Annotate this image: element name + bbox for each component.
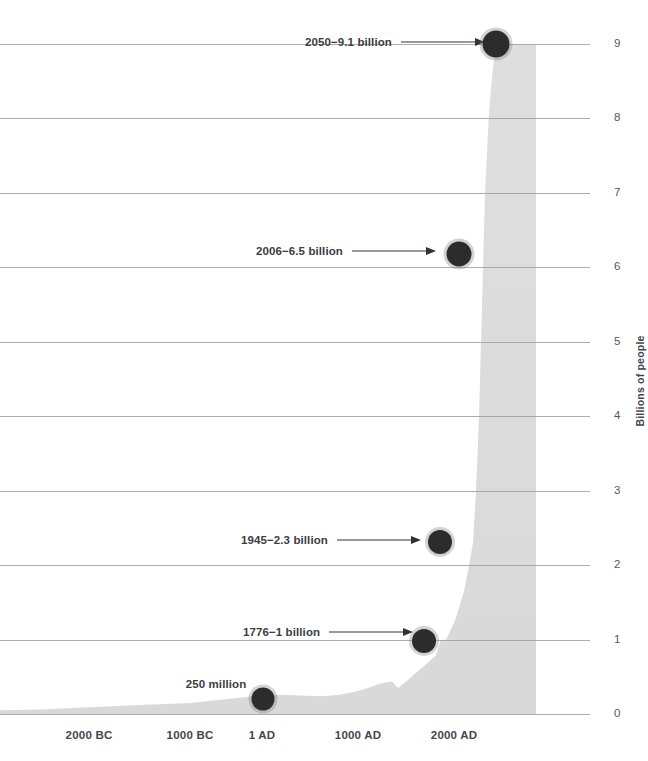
annotation-pop-2006: 2006−6.5 billion (256, 245, 437, 257)
xtick-label-1ad: 1 AD (249, 729, 276, 741)
gridline-4 (0, 416, 590, 417)
ytick-label-8: 8 (614, 111, 621, 123)
annotation-pop-1945: 1945−2.3 billion (241, 534, 422, 546)
ytick-label-9: 9 (614, 37, 621, 49)
gridline-5 (0, 342, 590, 343)
annotation-label-pop-2006: 2006−6.5 billion (256, 245, 343, 257)
population-area-path (0, 0, 648, 761)
gridline-2 (0, 565, 590, 566)
population-area-chart: 9 8 7 6 5 4 3 2 1 0 Billions of people 2… (0, 0, 648, 761)
gridline-3 (0, 491, 590, 492)
ytick-label-5: 5 (614, 335, 621, 347)
xtick-label-2000bc: 2000 BC (66, 729, 113, 741)
marker-pop-2006 (447, 242, 472, 267)
y-axis-title: Billions of people (634, 335, 646, 426)
xtick-label-2000ad: 2000 AD (431, 729, 477, 741)
arrow-right-icon (329, 627, 414, 637)
ytick-label-0: 0 (614, 707, 621, 719)
marker-pop-250-million (252, 688, 275, 711)
xtick-label-1000bc: 1000 BC (167, 729, 214, 741)
marker-pop-1776 (412, 629, 436, 653)
arrow-right-icon (337, 535, 422, 545)
gridline-0 (0, 714, 590, 715)
gridline-7 (0, 193, 590, 194)
arrow-right-icon (401, 37, 486, 47)
arrow-right-icon (352, 246, 437, 256)
ytick-label-2: 2 (614, 558, 621, 570)
annotation-label-pop-250-million: 250 million (186, 678, 247, 690)
annotation-pop-1776: 1776−1 billion (243, 626, 414, 638)
marker-pop-2050 (483, 31, 510, 58)
ytick-label-3: 3 (614, 484, 621, 496)
annotation-label-pop-1776: 1776−1 billion (243, 626, 320, 638)
ytick-label-1: 1 (614, 633, 621, 645)
annotation-pop-2050: 2050−9.1 billion (305, 36, 486, 48)
gridline-6 (0, 267, 590, 268)
gridline-8 (0, 118, 590, 119)
marker-pop-1945 (428, 530, 452, 554)
ytick-label-4: 4 (614, 409, 621, 421)
annotation-label-pop-1945: 1945−2.3 billion (241, 534, 328, 546)
ytick-label-7: 7 (614, 186, 621, 198)
ytick-label-6: 6 (614, 260, 621, 272)
gridline-1 (0, 640, 590, 641)
area-shape (0, 44, 536, 714)
xtick-label-1000ad: 1000 AD (335, 729, 381, 741)
plot-area: 9 8 7 6 5 4 3 2 1 0 Billions of people 2… (0, 0, 648, 761)
annotation-label-pop-2050: 2050−9.1 billion (305, 36, 392, 48)
